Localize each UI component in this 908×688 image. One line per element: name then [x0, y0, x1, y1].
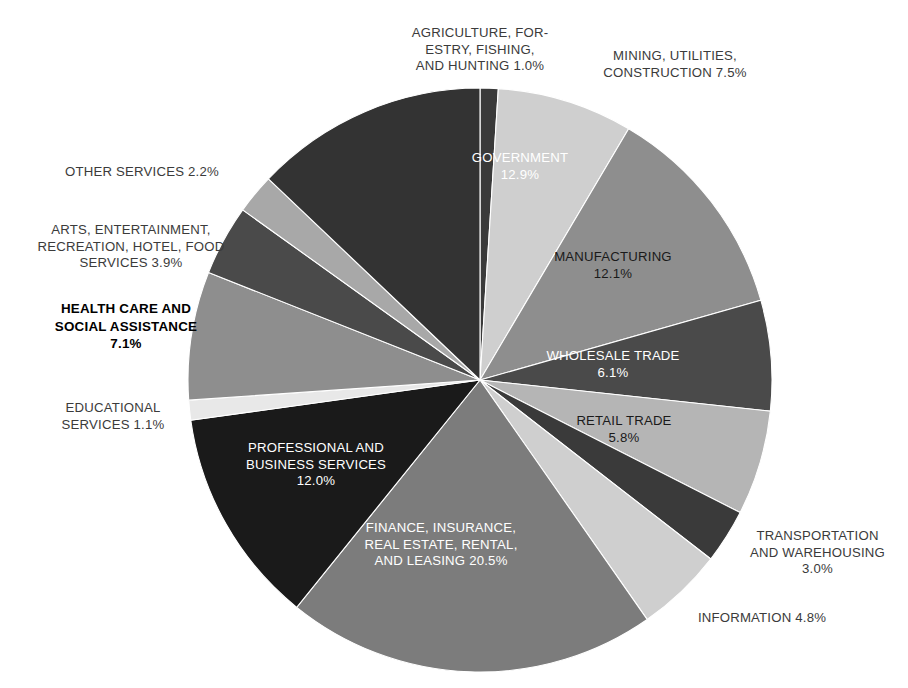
slice-label-transportation: TRANSPORTATION AND WAREHOUSING 3.0%: [735, 528, 900, 578]
pie-chart-figure: AGRICULTURE, FOR- ESTRY, FISHING, AND HU…: [0, 0, 908, 688]
slice-label-government: GOVERNMENT 12.9%: [430, 150, 610, 183]
slice-label-retail: RETAIL TRADE 5.8%: [540, 413, 708, 446]
slice-label-information: INFORMATION 4.8%: [672, 610, 852, 627]
slice-label-educational: EDUCATIONAL SERVICES 1.1%: [28, 400, 198, 433]
slice-label-finance: FINANCE, INSURANCE, REAL ESTATE, RENTAL,…: [333, 520, 549, 570]
slice-label-arts: ARTS, ENTERTAINMENT, RECREATION, HOTEL, …: [20, 222, 242, 272]
slice-label-mining: MINING, UTILITIES, CONSTRUCTION 7.5%: [575, 48, 775, 81]
slice-label-wholesale: WHOLESALE TRADE 6.1%: [518, 348, 708, 381]
slice-label-manufacturing: MANUFACTURING 12.1%: [523, 249, 703, 282]
slice-label-health-care: HEALTH CARE AND SOCIAL ASSISTANCE 7.1%: [26, 300, 226, 353]
slice-label-other-services: OTHER SERVICES 2.2%: [42, 164, 242, 181]
slice-label-agriculture: AGRICULTURE, FOR- ESTRY, FISHING, AND HU…: [385, 25, 575, 75]
slice-label-professional: PROFESSIONAL AND BUSINESS SERVICES 12.0%: [212, 440, 420, 490]
